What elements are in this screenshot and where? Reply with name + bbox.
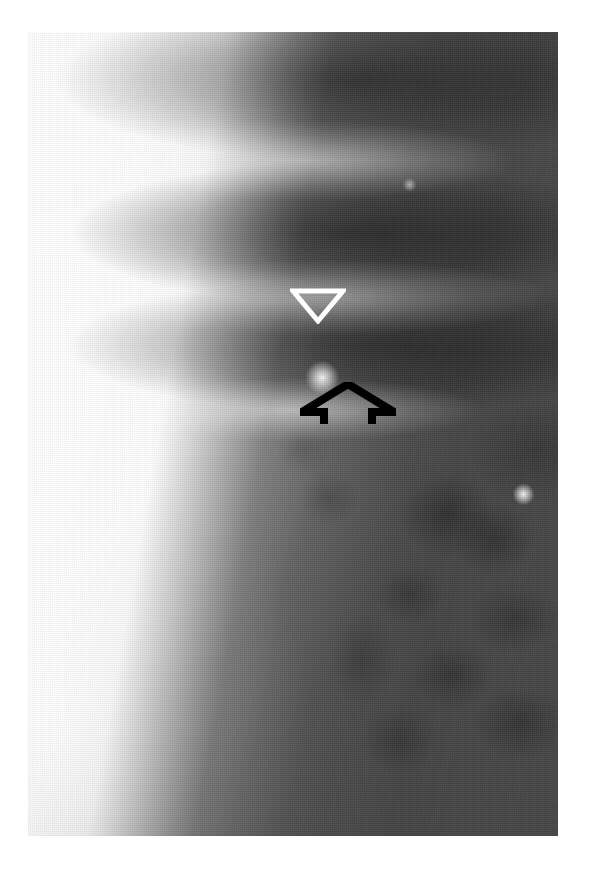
- open-arrow-shape: [302, 384, 394, 424]
- radiograph-film-grain-layer: [28, 32, 558, 836]
- figure-page: [0, 0, 593, 877]
- open-arrow-up-icon: [300, 382, 396, 424]
- radiograph-image: [28, 32, 558, 836]
- arrowhead-icon: [290, 288, 346, 324]
- figure-caption: [30, 858, 570, 877]
- arrowhead-triangle-shape: [293, 291, 343, 321]
